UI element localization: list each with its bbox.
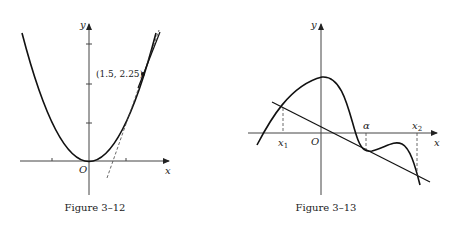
function-curve xyxy=(257,77,420,185)
caption: Figure 3–12 xyxy=(65,202,126,213)
x-axis-label: x xyxy=(165,165,171,176)
point-label: (1.5, 2.25) xyxy=(96,69,143,79)
x2-label: x2 xyxy=(412,120,422,133)
origin-label: O xyxy=(311,136,319,147)
tangent-line xyxy=(272,102,430,182)
figures-canvas: (1.5, 2.25) y x O Figure 3–12 y x O x1 α… xyxy=(0,0,459,227)
x1-label: x1 xyxy=(278,137,288,150)
figure-3-13: y x O x1 α x2 Figure 3–13 xyxy=(248,19,440,213)
caption: Figure 3–13 xyxy=(296,202,357,213)
origin-label: O xyxy=(79,164,87,175)
alpha-label: α xyxy=(363,120,370,131)
figure-3-12: (1.5, 2.25) y x O Figure 3–12 xyxy=(20,19,171,213)
y-axis-label: y xyxy=(310,19,317,30)
y-axis-label: y xyxy=(79,19,86,30)
x-axis-label: x xyxy=(434,137,440,148)
secant-line xyxy=(138,32,160,88)
